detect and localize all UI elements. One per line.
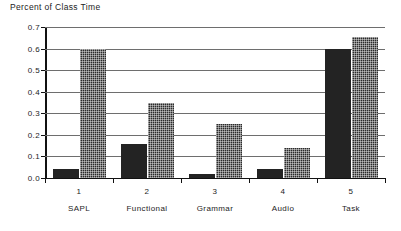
chart-title: Percent of Class Time xyxy=(10,2,101,12)
bar-task-dotted xyxy=(352,37,378,178)
x-tick-mark xyxy=(249,178,250,183)
bar-sapl-dotted xyxy=(80,49,106,178)
x-group-label-audio: Audio xyxy=(272,204,294,213)
y-tick-label: 0.3 xyxy=(28,109,40,118)
bar-sapl-solid xyxy=(53,169,79,178)
bar-functional-dotted xyxy=(148,103,174,179)
bar-chart: Percent of Class Time 0.00.10.20.30.40.5… xyxy=(0,0,401,231)
y-tick-label: 0.0 xyxy=(28,174,40,183)
x-tick-mark xyxy=(181,178,182,183)
bar-task-solid xyxy=(325,49,351,178)
y-tick-label: 0.1 xyxy=(28,152,40,161)
y-tick-label: 0.7 xyxy=(28,23,40,32)
bar-audio-solid xyxy=(257,169,283,178)
y-axis-labels: 0.00.10.20.30.40.50.60.7 xyxy=(0,27,40,178)
x-group-number: 4 xyxy=(281,187,286,196)
x-group-number: 2 xyxy=(145,187,150,196)
bar-functional-solid xyxy=(121,144,147,179)
x-tick-mark xyxy=(45,178,46,183)
x-group-number: 5 xyxy=(349,187,354,196)
x-group-label-task: Task xyxy=(342,204,360,213)
plot-area xyxy=(45,27,385,178)
x-group-label-sapl: SAPL xyxy=(68,204,90,213)
x-group-number: 1 xyxy=(77,187,82,196)
bar-audio-dotted xyxy=(284,148,310,178)
x-axis: 1SAPL2Functional3Grammar4Audio5Task xyxy=(45,178,385,231)
gridline xyxy=(45,27,385,28)
x-group-label-functional: Functional xyxy=(127,204,168,213)
x-tick-mark xyxy=(113,178,114,183)
x-tick-mark xyxy=(317,178,318,183)
y-tick-label: 0.5 xyxy=(28,66,40,75)
y-tick-label: 0.2 xyxy=(28,130,40,139)
x-group-label-grammar: Grammar xyxy=(197,204,234,213)
x-group-number: 3 xyxy=(213,187,218,196)
x-tick-mark xyxy=(385,178,386,183)
y-tick-label: 0.4 xyxy=(28,87,40,96)
bar-grammar-dotted xyxy=(216,124,242,178)
y-tick-label: 0.6 xyxy=(28,44,40,53)
